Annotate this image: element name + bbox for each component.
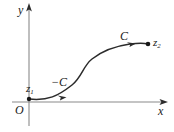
x-axis-label: x [158, 105, 163, 117]
point-z2-dot [146, 42, 151, 47]
origin-label: O [15, 104, 24, 116]
contour-figure: y x O z1 z2 −C C [0, 0, 174, 132]
point-z1-dot [27, 97, 31, 101]
contour-curve [29, 43, 148, 99]
curve-direction-arrow-lower-icon [58, 96, 67, 101]
point-z2-label-subscript: 2 [157, 42, 160, 49]
point-z2-label: z2 [153, 37, 161, 48]
point-z1-label-subscript: 1 [30, 88, 33, 95]
figure-canvas [0, 0, 174, 132]
curve-label-c: C [120, 30, 128, 42]
y-axis-label: y [18, 4, 23, 16]
point-z1-label: z1 [26, 83, 34, 94]
curve-label-negative-c: −C [51, 76, 67, 88]
